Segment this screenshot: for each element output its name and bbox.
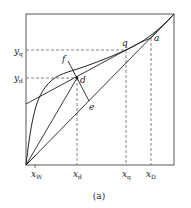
- point-d-marker: [76, 77, 79, 80]
- figure-caption: (a): [93, 191, 105, 201]
- label-a: a: [154, 33, 159, 43]
- label-xq: xq: [122, 169, 131, 181]
- label-xD: xD: [146, 169, 156, 180]
- distillation-diagram: q a f d e yq yd xW xd xq xD (a): [0, 0, 191, 208]
- label-yq: yq: [13, 46, 23, 58]
- label-yd: yd: [13, 73, 23, 84]
- origin-to-d-line: [26, 78, 77, 165]
- label-xw: xW: [31, 169, 43, 180]
- fde-line: [68, 61, 89, 101]
- label-e: e: [89, 102, 94, 112]
- label-d: d: [80, 75, 86, 85]
- upper-operating-line: [126, 14, 174, 50]
- label-f: f: [61, 54, 67, 64]
- label-xd: xd: [73, 169, 82, 180]
- label-q: q: [122, 38, 128, 48]
